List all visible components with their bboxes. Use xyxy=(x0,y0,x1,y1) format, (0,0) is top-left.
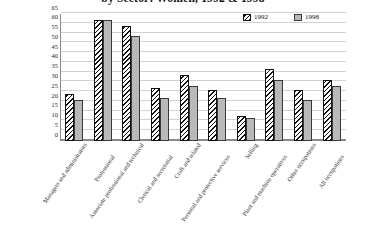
bar-1998 xyxy=(217,98,226,141)
bar-1998 xyxy=(160,98,169,141)
x-axis-category-label: Selling xyxy=(244,142,259,160)
y-axis-tick-label: 15 xyxy=(6,102,58,108)
bar-group xyxy=(323,14,341,141)
chart-container: by Sector: Women, 1992 & 1998 0510152025… xyxy=(0,0,366,250)
y-axis-tick-label: 60 xyxy=(6,14,58,20)
bar-1992 xyxy=(237,116,246,141)
y-axis-tick-label: 45 xyxy=(6,44,58,50)
y-axis-tick-label: 0 xyxy=(6,132,58,138)
y-axis-tick-label: 35 xyxy=(6,63,58,69)
bar-group xyxy=(180,14,198,141)
bar-1992 xyxy=(122,26,131,141)
bar-1998 xyxy=(332,86,341,141)
x-axis-category-label: Craft and related xyxy=(173,142,202,180)
bar-1998 xyxy=(103,20,112,141)
bar-1998 xyxy=(246,118,255,141)
bar-group xyxy=(208,14,226,141)
bar-1992 xyxy=(294,90,303,141)
y-axis-tick-label: 40 xyxy=(6,53,58,59)
x-axis-category-label: Other occupations xyxy=(286,142,317,183)
y-axis-tick-label: 10 xyxy=(6,112,58,118)
legend-item-1998: 1998 xyxy=(294,13,319,21)
x-axis-category-label: Clerical and secretarial xyxy=(136,154,174,204)
y-axis-tick-label: 50 xyxy=(6,34,58,40)
bar-group xyxy=(151,14,169,141)
y-axis-tick-label: 25 xyxy=(6,83,58,89)
legend-swatch-1998-icon xyxy=(294,14,302,21)
bar-1992 xyxy=(151,88,160,141)
y-axis-tick-label: 55 xyxy=(6,24,58,30)
bar-1992 xyxy=(323,80,332,141)
bar-1998 xyxy=(189,86,198,141)
legend-label-1992: 1992 xyxy=(254,13,268,21)
chart-legend: 1992 1998 xyxy=(243,13,319,21)
bar-1992 xyxy=(265,69,274,141)
bar-1992 xyxy=(180,75,189,141)
bar-1992 xyxy=(208,90,217,141)
bar-group xyxy=(237,14,255,141)
legend-item-1992: 1992 xyxy=(243,13,268,21)
bar-1992 xyxy=(65,94,74,141)
bar-1998 xyxy=(131,36,140,142)
bar-1992 xyxy=(94,20,103,141)
x-axis-category-label: Managers and administrators xyxy=(42,142,88,204)
x-axis-labels: Managers and administratorsProfessionalA… xyxy=(60,142,346,250)
bar-1998 xyxy=(74,100,83,141)
legend-label-1998: 1998 xyxy=(305,13,319,21)
legend-swatch-1992-icon xyxy=(243,14,251,21)
bar-group xyxy=(265,14,283,141)
bar-group xyxy=(294,14,312,141)
x-axis-category-label: Plant and machine operatives xyxy=(241,154,288,217)
bar-1998 xyxy=(274,80,283,141)
y-axis-tick-label: 5 xyxy=(6,122,58,128)
x-axis-category-label: All occupations xyxy=(318,154,345,190)
y-axis-labels: 05101520253035404550556065 xyxy=(0,14,58,141)
bar-1998 xyxy=(303,100,312,141)
bar-groups xyxy=(60,14,346,141)
y-axis-tick-label: 30 xyxy=(6,73,58,79)
y-axis-tick-label: 20 xyxy=(6,93,58,99)
bar-group xyxy=(65,14,83,141)
bar-group xyxy=(94,14,112,141)
bar-group xyxy=(122,14,140,141)
y-axis-tick-label: 65 xyxy=(6,5,58,11)
